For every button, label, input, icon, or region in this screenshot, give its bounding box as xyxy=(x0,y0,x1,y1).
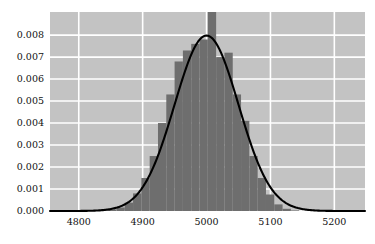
y-tick-label: 0.007 xyxy=(17,51,44,62)
x-tick-label: 5000 xyxy=(194,216,218,227)
histogram-bar xyxy=(249,156,257,211)
x-tick-label: 5100 xyxy=(258,216,282,227)
histogram-bar xyxy=(274,204,282,211)
chart-figure: 0.0000.0010.0020.0030.0040.0050.0060.007… xyxy=(0,0,375,244)
histogram-bar xyxy=(283,209,291,211)
histogram-bar xyxy=(291,210,299,211)
histogram-bar xyxy=(200,39,208,211)
y-tick-label: 0.005 xyxy=(17,95,44,106)
y-tick-label: 0.006 xyxy=(17,73,44,84)
x-tick-label: 4800 xyxy=(67,216,91,227)
y-axis-tick-labels: 0.0000.0010.0020.0030.0040.0050.0060.007… xyxy=(17,29,44,216)
histogram-bar xyxy=(216,57,224,211)
y-tick-label: 0.004 xyxy=(17,117,44,128)
x-tick-label: 5200 xyxy=(322,216,346,227)
histogram-bar xyxy=(258,178,266,211)
histogram-plot: 0.0000.0010.0020.0030.0040.0050.0060.007… xyxy=(0,0,375,244)
y-tick-label: 0.003 xyxy=(17,139,44,150)
histogram-bar xyxy=(191,44,199,211)
histogram-bar xyxy=(266,195,274,211)
x-axis-tick-labels: 48004900500051005200 xyxy=(67,216,347,227)
histogram-bar xyxy=(224,53,232,211)
y-tick-label: 0.000 xyxy=(17,205,44,216)
y-tick-label: 0.008 xyxy=(17,29,44,40)
y-tick-label: 0.001 xyxy=(17,183,44,194)
y-tick-label: 0.002 xyxy=(17,161,44,172)
x-tick-label: 4900 xyxy=(131,216,155,227)
